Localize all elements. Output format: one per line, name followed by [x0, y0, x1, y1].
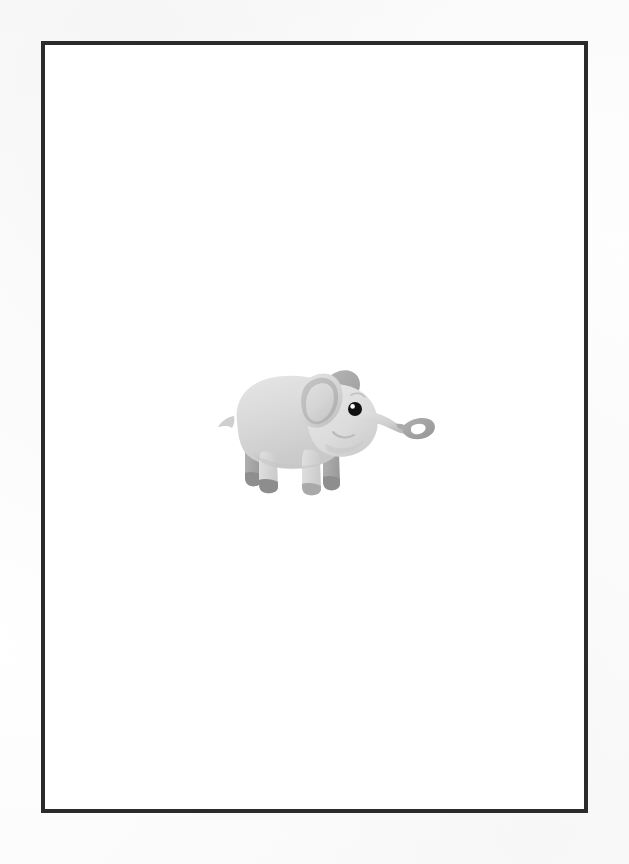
eye-highlight: [350, 404, 355, 409]
eye-iris: [348, 402, 362, 416]
tail-shape: [218, 416, 234, 428]
hind-far-leg-hoof: [323, 476, 340, 490]
front-near-leg-hoof: [259, 479, 278, 493]
trunk-tip-curl: [403, 418, 435, 439]
page-canvas: baby elephant Baby Elephant Illustration: [0, 0, 629, 864]
picture-frame-border: [41, 41, 588, 813]
hind-near-leg-hoof: [302, 483, 321, 495]
baby-elephant-illustration: [218, 358, 438, 503]
artwork-stage: [45, 45, 584, 809]
